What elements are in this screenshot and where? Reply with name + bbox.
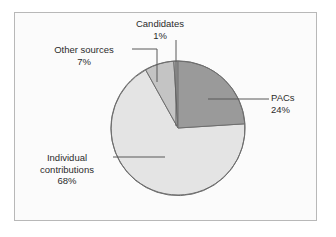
pie-label-individual-contributions: Individual contributions 68% [22, 152, 112, 187]
pie-label-candidates-name: Candidates [136, 18, 184, 29]
pie-label-individual-percent: 68% [22, 175, 112, 187]
pie-label-candidates-percent: 1% [121, 30, 199, 42]
pie-label-individual-name-line2: contributions [22, 164, 112, 176]
pie-label-pacs-percent: 24% [271, 104, 331, 116]
pie-label-other-sources: Other sources 7% [36, 44, 132, 67]
pie-label-other-sources-name: Other sources [54, 44, 114, 55]
pie-slice-pacs [178, 61, 245, 128]
pie-chart-figure: Candidates 1% Other sources 7% PACs 24% … [0, 0, 336, 237]
pie-label-individual-name-line1: Individual [47, 152, 87, 163]
pie-label-pacs-name: PACs [271, 92, 295, 103]
pie-label-other-sources-percent: 7% [36, 56, 132, 68]
pie-label-pacs: PACs 24% [271, 92, 331, 115]
pie-label-candidates: Candidates 1% [121, 18, 199, 41]
